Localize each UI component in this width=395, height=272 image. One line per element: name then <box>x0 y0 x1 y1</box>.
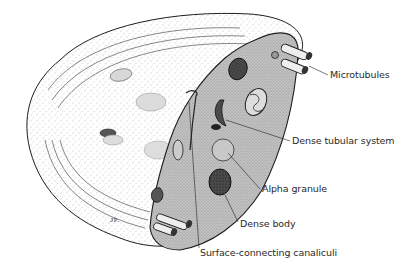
label-surface-connecting-canaliculi: Surface-connecting canaliculi <box>200 247 337 258</box>
label-dense-body: Dense body <box>240 218 296 229</box>
surface-granule <box>136 93 166 111</box>
surface-granule <box>103 135 123 145</box>
leader-microtubules <box>309 66 328 75</box>
label-microtubules: Microtubules <box>330 69 390 80</box>
surface-bleb <box>151 188 163 202</box>
label-dense-tubular-system: Dense tubular system <box>292 135 395 146</box>
small-dark-granule <box>211 124 221 130</box>
alpha-granule-shape <box>212 139 234 161</box>
artist-signature: ᴊᴘ. <box>110 216 120 224</box>
small-vesicle <box>272 52 279 59</box>
label-alpha-granule: Alpha granule <box>262 183 327 194</box>
canaliculus-vacuole <box>173 140 183 160</box>
dense-body-shape <box>209 169 231 195</box>
